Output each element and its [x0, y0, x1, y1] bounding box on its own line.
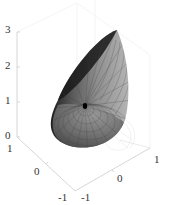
- y-tick-neg1: -1: [58, 192, 67, 203]
- center-point: [83, 103, 87, 109]
- y-tick-0: 0: [34, 166, 40, 177]
- x-tick-neg1: -1: [81, 192, 90, 203]
- z-axis: [17, 32, 20, 137]
- x-tick-1: 1: [154, 154, 160, 165]
- z-tick-3: 3: [5, 24, 11, 35]
- z-tick-0: 0: [5, 130, 11, 141]
- surface-plot: [0, 0, 176, 205]
- surface-body: [46, 28, 132, 154]
- z-tick-1: 1: [5, 95, 11, 106]
- x-tick-0: 0: [117, 173, 123, 184]
- z-tick-2: 2: [5, 60, 11, 71]
- y-tick-1: 1: [7, 143, 13, 154]
